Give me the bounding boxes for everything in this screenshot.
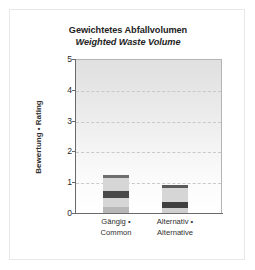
y-tick-mark-3 <box>72 121 75 122</box>
x-axis-line <box>73 213 223 214</box>
y-axis-ticks: 5 4 3 2 1 0 <box>50 10 72 270</box>
y-tick-label-2: 2 <box>54 146 72 156</box>
y-tick-mark-0 <box>72 213 75 214</box>
y-tick-label-5: 5 <box>54 54 72 64</box>
x-category-label-alternativ-alternative: Alternativ • Alternative <box>129 217 221 238</box>
y-tick-mark-5 <box>72 59 75 60</box>
y-axis-line <box>75 59 76 214</box>
bar-segment <box>103 178 129 192</box>
page-title: Gewichtetes Abfallvolumen <box>10 24 246 36</box>
y-tick-label-3: 3 <box>54 116 72 126</box>
page-subtitle: Weighted Waste Volume <box>10 36 246 48</box>
bar-segment <box>103 198 129 207</box>
x-category-line: Alternative <box>129 228 221 239</box>
gridline-4 <box>76 91 221 92</box>
bar-segment <box>103 191 129 197</box>
plot-area <box>76 59 222 213</box>
gridline-1 <box>76 183 221 184</box>
bar-segment <box>103 175 129 178</box>
bar-segment <box>162 202 188 208</box>
y-axis-label: Bewertung • Rating <box>34 100 43 173</box>
bar-alternativ-alternative <box>162 185 188 213</box>
bar-gaengig-common <box>103 175 129 214</box>
y-tick-label-1: 1 <box>54 177 72 187</box>
y-tick-mark-4 <box>72 90 75 91</box>
y-tick-mark-2 <box>72 151 75 152</box>
y-axis-label-wrap: Bewertung • Rating <box>31 59 45 214</box>
y-tick-mark-1 <box>72 182 75 183</box>
chart-card: Gewichtetes Abfallvolumen Weighted Waste… <box>9 9 245 260</box>
y-tick-label-4: 4 <box>54 85 72 95</box>
gridline-2 <box>76 152 221 153</box>
chart-title-block: Gewichtetes Abfallvolumen Weighted Waste… <box>10 24 246 48</box>
bar-segment <box>162 188 188 202</box>
gridline-3 <box>76 122 221 123</box>
x-category-line: Alternativ • <box>129 217 221 228</box>
bar-segment <box>162 185 188 189</box>
